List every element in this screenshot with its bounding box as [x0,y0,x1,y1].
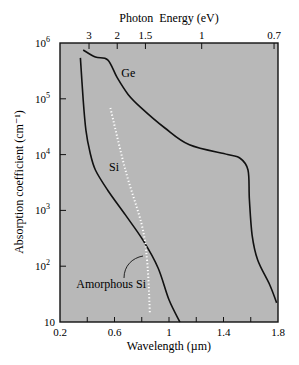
x-tick-label: 1.4 [217,326,231,338]
x-tick-label: 0.2 [53,326,67,338]
amorphous-si-label: Amorphous Si [76,277,146,291]
top-tick-label: 1.5 [139,29,153,41]
y-axis-tick-labels: 10102103104105106 [35,35,56,328]
y-tick-label: 103 [35,202,50,216]
top-axis-tick-labels: 321.510.7 [86,29,281,41]
x-tick-label: 1.8 [271,326,285,338]
ge-label: Ge [121,66,135,80]
x-tick-label: 1 [166,326,172,338]
y-axis-title: Absorption coefficient (cm⁻¹) [12,110,26,254]
y-tick-label: 104 [35,147,50,161]
top-tick-label: 2 [114,29,120,41]
y-tick-label: 106 [35,35,50,49]
top-axis-title: Photon Energy (eV) [119,11,218,25]
y-tick-label: 102 [35,258,50,272]
top-tick-label: 1 [199,29,205,41]
x-axis-tick-labels: 0.20.611.41.8 [53,326,285,338]
x-tick-label: 0.6 [108,326,122,338]
absorption-chart: 0.20.611.41.8 10102103104105106 321.510.… [0,0,299,365]
y-tick-label: 10 [44,316,56,328]
si-label: Si [109,160,120,174]
x-axis-title: Wavelength (µm) [127,339,211,353]
y-tick-label: 105 [35,91,50,105]
top-tick-label: 0.7 [267,29,281,41]
top-tick-label: 3 [86,29,92,41]
